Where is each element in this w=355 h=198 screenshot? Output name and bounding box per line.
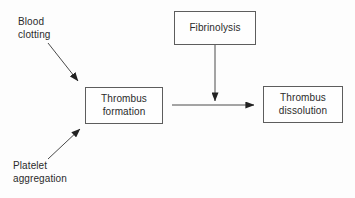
node-fibrinolysis-line-1: Fibrinolysis: [189, 22, 240, 35]
label-platelet-aggregation-line-1: Platelet: [13, 160, 67, 173]
node-thrombus-dissolution-line-1: Thrombus: [280, 92, 326, 105]
node-thrombus-dissolution-line-2: dissolution: [279, 105, 327, 118]
node-thrombus-dissolution[interactable]: Thrombus dissolution: [263, 86, 343, 123]
arrow-blood-clotting-to-thrombus-formation: [48, 43, 78, 81]
node-thrombus-formation[interactable]: Thrombus formation: [85, 87, 163, 124]
label-platelet-aggregation-line-2: aggregation: [13, 173, 67, 186]
node-thrombus-formation-line-1: Thrombus: [101, 93, 147, 106]
node-fibrinolysis[interactable]: Fibrinolysis: [174, 11, 256, 45]
node-thrombus-formation-line-2: formation: [103, 106, 146, 119]
diagram-canvas: Thrombus formation Fibrinolysis Thrombus…: [0, 0, 355, 198]
label-blood-clotting: Blood clotting: [18, 16, 51, 41]
label-blood-clotting-line-2: clotting: [18, 29, 51, 42]
arrow-platelet-aggregation-to-thrombus-formation: [48, 129, 80, 159]
label-blood-clotting-line-1: Blood: [18, 16, 51, 29]
label-platelet-aggregation: Platelet aggregation: [13, 160, 67, 185]
